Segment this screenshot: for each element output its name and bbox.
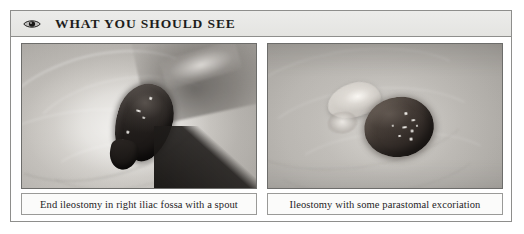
stoma-highlight xyxy=(135,109,140,113)
photo-shadow-region xyxy=(268,44,502,74)
stoma-highlight xyxy=(126,130,130,134)
stoma-highlight xyxy=(409,138,412,141)
panel-header: WHAT YOU SHOULD SEE xyxy=(11,11,511,37)
figure-caption-left: End ileostomy in right iliac fossa with … xyxy=(21,193,257,215)
figure-area: End ileostomy in right iliac fossa with … xyxy=(11,37,511,221)
stoma-highlight xyxy=(398,135,402,137)
what-you-should-see-panel: WHAT YOU SHOULD SEE xyxy=(10,10,512,222)
figure-left: End ileostomy in right iliac fossa with … xyxy=(21,43,257,215)
clinical-photo-end-ileostomy xyxy=(21,43,257,189)
photo-image-right xyxy=(268,44,502,188)
stoma-highlight xyxy=(416,125,418,127)
stoma-highlight xyxy=(411,119,415,122)
page-title: WHAT YOU SHOULD SEE xyxy=(55,16,236,32)
figure-caption-right: Ileostomy with some parastomal excoriati… xyxy=(267,193,503,215)
stoma-highlight xyxy=(410,130,413,133)
figure-right: Ileostomy with some parastomal excoriati… xyxy=(267,43,503,215)
clinical-photo-parastomal-excoriation xyxy=(267,43,503,189)
photo-image-left xyxy=(22,44,256,188)
stoma-highlight xyxy=(404,112,407,115)
photo-dark-corner xyxy=(154,126,256,188)
eye-icon xyxy=(23,18,41,30)
stoma-highlight xyxy=(392,125,394,127)
stoma-highlight xyxy=(402,126,407,129)
caption-text: End ileostomy in right iliac fossa with … xyxy=(40,199,238,210)
stoma-highlight xyxy=(142,116,145,119)
caption-text: Ileostomy with some parastomal excoriati… xyxy=(290,199,481,210)
photo-shadow-region xyxy=(268,162,502,188)
stoma-highlight xyxy=(125,149,127,151)
stoma-highlight xyxy=(148,96,152,100)
stoma-highlight xyxy=(121,139,124,142)
